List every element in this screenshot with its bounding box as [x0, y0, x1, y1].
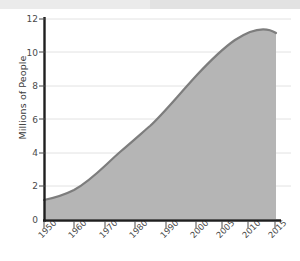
area-fill	[44, 29, 276, 219]
plot-area	[0, 0, 300, 261]
x-axis-ticks	[44, 221, 275, 228]
chart-container: Millions of People 0 2 4 6 8 10 12 1950 …	[0, 0, 300, 261]
